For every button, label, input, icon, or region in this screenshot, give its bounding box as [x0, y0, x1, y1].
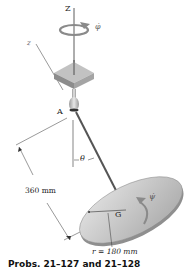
z-inclined-axis-line [36, 44, 63, 90]
phi-rotation-arrow-icon [60, 22, 90, 35]
length-label: 360 mm [25, 187, 56, 195]
ball-joint-a [69, 89, 79, 112]
dimension-360 [16, 118, 86, 240]
point-a-label: A [57, 108, 63, 116]
radius-label: r = 180 mm [92, 248, 138, 256]
figure-caption: Probs. 21–127 and 21–128 [8, 259, 140, 269]
disk [70, 163, 187, 260]
phi-dot-label: φ̇ [95, 23, 101, 31]
z-inclined-axis-label: z [27, 40, 31, 47]
center-g-label: G [115, 211, 121, 219]
psi-dot-label: ψ̇ [149, 193, 155, 201]
theta-label: θ [80, 155, 85, 163]
z-axis-label: Z [65, 5, 71, 13]
